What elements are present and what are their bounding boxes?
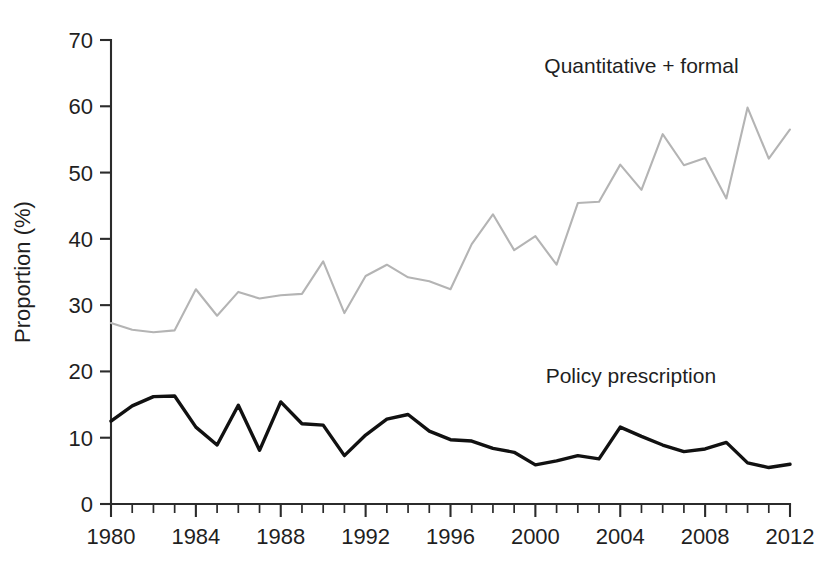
x-tick-label-2012: 2012	[766, 524, 815, 549]
x-tick-label-2004: 2004	[596, 524, 645, 549]
y-axis-label: Proportion (%)	[10, 201, 35, 343]
line-chart: 010203040506070 198019841988199219962000…	[0, 0, 835, 563]
y-tick-label-70: 70	[69, 28, 93, 53]
x-tick-label-2000: 2000	[511, 524, 560, 549]
y-tick-label-60: 60	[69, 94, 93, 119]
x-axis: 198019841988199219962000200420082012	[87, 504, 815, 549]
y-tick-label-30: 30	[69, 293, 93, 318]
chart-figure: 010203040506070 198019841988199219962000…	[0, 0, 835, 563]
x-tick-label-2008: 2008	[681, 524, 730, 549]
series-label-1: Quantitative + formal	[544, 54, 738, 77]
y-tick-label-40: 40	[69, 227, 93, 252]
chart-background	[0, 0, 835, 563]
y-tick-label-50: 50	[69, 161, 93, 186]
y-tick-label-20: 20	[69, 359, 93, 384]
x-tick-label-1996: 1996	[426, 524, 475, 549]
series-label-2: Policy prescription	[546, 364, 716, 387]
y-tick-label-10: 10	[69, 426, 93, 451]
y-tick-label-0: 0	[81, 492, 93, 517]
y-axis-title: Proportion (%)	[10, 201, 35, 343]
x-tick-label-1988: 1988	[256, 524, 305, 549]
x-tick-label-1984: 1984	[171, 524, 220, 549]
x-tick-label-1992: 1992	[341, 524, 390, 549]
x-tick-label-1980: 1980	[87, 524, 136, 549]
